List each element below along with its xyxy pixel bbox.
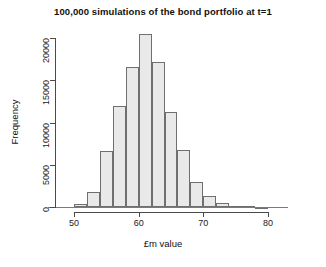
y-axis-line	[55, 38, 56, 208]
x-axis-tick	[203, 212, 204, 217]
y-axis-tick-label: 20000	[41, 38, 51, 63]
x-axis-line	[74, 212, 269, 213]
y-axis-tick-label: 5000	[41, 165, 51, 185]
histogram-bar	[126, 67, 139, 207]
histogram-bar	[139, 34, 152, 207]
y-axis-tick-label: 15000	[41, 80, 51, 105]
histogram-bar	[113, 106, 126, 207]
x-axis-tick-label: 80	[263, 218, 273, 228]
histogram-bar	[203, 196, 216, 207]
y-axis-tick-label: 10000	[41, 123, 51, 148]
histogram-bar	[100, 151, 113, 207]
y-axis-tick-label: 0	[41, 207, 51, 212]
x-axis-tick	[139, 212, 140, 217]
plot-baseline	[48, 207, 288, 208]
histogram-bar	[190, 182, 203, 207]
histogram-bar	[165, 112, 178, 207]
x-axis-title: £m value	[0, 238, 326, 249]
x-axis-tick-label: 70	[198, 218, 208, 228]
histogram-bar	[152, 62, 165, 207]
x-axis-tick-label: 60	[134, 218, 144, 228]
histogram-bar	[177, 150, 190, 207]
y-axis-title: Frequency	[9, 100, 20, 145]
x-axis-tick-label: 50	[69, 218, 79, 228]
x-axis-tick	[268, 212, 269, 217]
histogram-chart: 100,000 simulations of the bond portfoli…	[0, 0, 326, 267]
x-axis-tick	[74, 212, 75, 217]
histogram-bar	[87, 192, 100, 207]
